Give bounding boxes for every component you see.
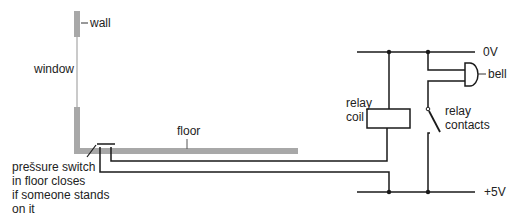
relay-contacts-label-line2: contacts (445, 118, 490, 132)
wall-lower (74, 107, 80, 153)
window-label: window (34, 62, 74, 76)
rail-5v-label: +5V (484, 185, 506, 199)
switch-label-line4: on it (12, 202, 35, 216)
bell-symbol (465, 63, 478, 86)
wire-contacts-to-5v (428, 133, 430, 192)
wire-switch-to-coil (111, 128, 387, 161)
switch-label-line1: prešsure switch (12, 160, 95, 174)
relay-coil-label-line1: relay (346, 96, 372, 110)
relay-coil (367, 109, 410, 128)
relay-contacts-label-line1: relay (445, 104, 471, 118)
relay-contact-blade (429, 111, 440, 132)
floor (74, 148, 298, 154)
wall-upper (74, 11, 80, 37)
switch-label-line2: in floor closes (12, 174, 85, 188)
bell-label: bell (488, 67, 507, 81)
wire-0v-to-bell (428, 52, 465, 70)
rail-0v-label: 0V (483, 45, 498, 59)
floor-label: floor (177, 124, 200, 138)
relay-contact-pivot (426, 107, 430, 111)
wall-label: wall (90, 16, 111, 30)
junction-dot (387, 190, 391, 194)
relay-coil-label-line2: coil (346, 110, 364, 124)
switch-label-line3: if someone stands (12, 188, 109, 202)
